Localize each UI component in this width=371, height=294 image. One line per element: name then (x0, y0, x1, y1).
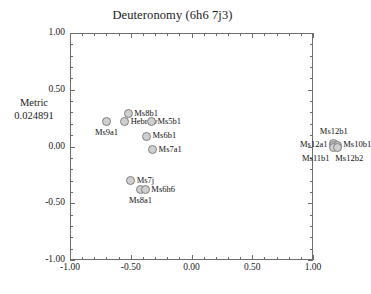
y-axis-minor-tick (70, 215, 73, 216)
x-axis-minor-tick (167, 33, 168, 36)
y-axis-major-tick (70, 33, 75, 34)
x-axis-minor-tick (240, 257, 241, 260)
y-axis-major-tick (70, 147, 75, 148)
y-axis-minor-tick (70, 158, 73, 159)
x-axis-major-tick (313, 255, 314, 260)
y-axis-major-tick (308, 33, 313, 34)
data-point-label: Ms11b1 (302, 154, 330, 163)
x-axis-minor-tick (216, 257, 217, 260)
y-axis-tick-label: 1.00 (23, 27, 65, 37)
y-axis-minor-tick (310, 181, 313, 182)
y-axis-minor-tick (70, 112, 73, 113)
x-axis-minor-tick (277, 33, 278, 36)
y-axis-minor-tick (310, 249, 313, 250)
y-axis-tick-label: -0.50 (23, 197, 65, 207)
x-axis-minor-tick (155, 257, 156, 260)
x-axis-minor-tick (204, 33, 205, 36)
y-axis-minor-tick (70, 237, 73, 238)
x-axis-minor-tick (143, 257, 144, 260)
y-axis-minor-tick (70, 56, 73, 57)
data-point-label: Ms10b1 (343, 140, 371, 149)
x-axis-minor-tick (143, 33, 144, 36)
y-axis-minor-tick (310, 78, 313, 79)
y-axis-major-tick (308, 90, 313, 91)
data-point-label: Ms6h6 (151, 185, 175, 194)
x-axis-minor-tick (228, 33, 229, 36)
y-axis-tick-label: 0.50 (23, 84, 65, 94)
y-axis-minor-tick (310, 215, 313, 216)
y-axis-minor-tick (310, 124, 313, 125)
plot-area (70, 33, 313, 260)
y-axis-minor-tick (70, 124, 73, 125)
x-axis-minor-tick (240, 33, 241, 36)
x-axis-major-tick (131, 255, 132, 260)
data-point-label: Ms8a1 (129, 196, 152, 205)
y-axis-minor-tick (310, 101, 313, 102)
data-point-marker (147, 117, 156, 126)
x-axis-minor-tick (289, 33, 290, 36)
x-axis-minor-tick (94, 257, 95, 260)
x-axis-minor-tick (301, 257, 302, 260)
metric-label: Metric (0, 96, 68, 109)
y-axis-minor-tick (310, 135, 313, 136)
y-axis-minor-tick (70, 181, 73, 182)
x-axis-minor-tick (204, 257, 205, 260)
x-axis-minor-tick (155, 33, 156, 36)
data-point-label: Ms9a1 (95, 128, 118, 137)
data-point-label: Ms12b1 (320, 127, 348, 136)
x-axis-minor-tick (82, 33, 83, 36)
y-axis-minor-tick (70, 192, 73, 193)
y-axis-minor-tick (70, 101, 73, 102)
metric-value: 0.024891 (0, 109, 68, 122)
data-point-marker (142, 132, 151, 141)
y-axis-minor-tick (70, 249, 73, 250)
x-axis-minor-tick (216, 33, 217, 36)
y-axis-minor-tick (310, 67, 313, 68)
data-point-label: Ms12a1 (300, 140, 327, 149)
y-axis-minor-tick (70, 78, 73, 79)
data-point-label: Ms7a1 (159, 145, 182, 154)
x-axis-major-tick (131, 33, 132, 38)
x-axis-minor-tick (167, 257, 168, 260)
y-axis-major-tick (70, 90, 75, 91)
x-axis-minor-tick (106, 257, 107, 260)
y-axis-minor-tick (70, 44, 73, 45)
y-axis-minor-tick (70, 169, 73, 170)
x-axis-minor-tick (228, 257, 229, 260)
chart-title: Deuteronomy (6h6 7j3) (0, 8, 345, 23)
data-point-label: Ms6b1 (153, 131, 177, 140)
x-axis-major-tick (313, 33, 314, 38)
data-point-marker (333, 143, 342, 152)
x-axis-tick-label: 1.00 (290, 262, 336, 272)
y-axis-major-tick (308, 203, 313, 204)
x-axis-tick-label: 0.50 (229, 262, 275, 272)
y-axis-major-tick (70, 260, 75, 261)
y-axis-minor-tick (70, 135, 73, 136)
y-axis-major-tick (70, 203, 75, 204)
x-axis-tick-label: 0.00 (169, 262, 215, 272)
x-axis-minor-tick (119, 257, 120, 260)
y-axis-minor-tick (310, 226, 313, 227)
x-axis-minor-tick (277, 257, 278, 260)
x-axis-major-tick (252, 33, 253, 38)
x-axis-minor-tick (82, 257, 83, 260)
data-point-label: Ms5b1 (157, 117, 181, 126)
x-axis-minor-tick (94, 33, 95, 36)
x-axis-minor-tick (264, 257, 265, 260)
data-point-label: Ms12b2 (335, 154, 363, 163)
x-axis-minor-tick (289, 257, 290, 260)
data-point-marker (141, 185, 150, 194)
y-axis-minor-tick (310, 237, 313, 238)
y-axis-major-tick (308, 260, 313, 261)
data-point-marker (102, 117, 111, 126)
x-axis-minor-tick (301, 33, 302, 36)
x-axis-minor-tick (179, 257, 180, 260)
y-axis-minor-tick (70, 226, 73, 227)
x-axis-major-tick (252, 255, 253, 260)
y-axis-tick-label: -1.00 (23, 254, 65, 264)
x-axis-tick-label: -0.50 (108, 262, 154, 272)
x-axis-minor-tick (264, 33, 265, 36)
x-axis-minor-tick (119, 33, 120, 36)
x-axis-major-tick (192, 255, 193, 260)
